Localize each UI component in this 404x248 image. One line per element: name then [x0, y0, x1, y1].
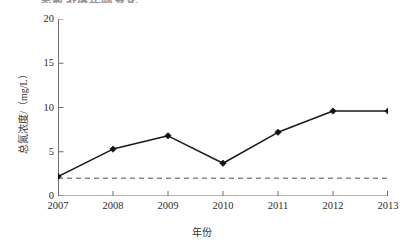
y-tick-label: 20 [32, 14, 54, 25]
chart-title-remnant: 总氮浓度年际变化 [40, 0, 370, 3]
axes [59, 19, 389, 196]
x-tick-label: 2007 [36, 201, 80, 212]
x-tick-label: 2009 [146, 201, 190, 212]
data-point-marker [385, 108, 388, 114]
y-axis-title: 总氮浓度/（mg/L） [15, 52, 30, 172]
x-tick-label: 2011 [256, 201, 300, 212]
chart-figure: 总氮浓度年际变化 总氮浓度/（mg/L） 年份 05101520 2007200… [0, 0, 404, 248]
y-axis-tick-labels: 05101520 [30, 19, 54, 196]
data-marker-group [58, 108, 388, 180]
y-tick-label: 5 [32, 147, 54, 158]
data-point-marker [165, 133, 171, 139]
x-axis-title: 年份 [0, 224, 404, 239]
data-point-marker [330, 108, 336, 114]
data-point-marker [275, 129, 281, 135]
plot-area [58, 19, 388, 196]
x-tick-label: 2010 [201, 201, 245, 212]
data-point-marker [110, 146, 116, 152]
y-tick-label: 15 [32, 58, 54, 69]
y-tick-label: 10 [32, 103, 54, 114]
axis-spines [59, 19, 389, 196]
x-tick-label: 2013 [366, 201, 404, 212]
data-point-marker [220, 160, 226, 166]
x-axis-tick-labels: 2007200820092010201120122013 [58, 201, 388, 215]
x-tick-label: 2012 [311, 201, 355, 212]
x-tick-label: 2008 [91, 201, 135, 212]
plot-svg [58, 19, 388, 196]
